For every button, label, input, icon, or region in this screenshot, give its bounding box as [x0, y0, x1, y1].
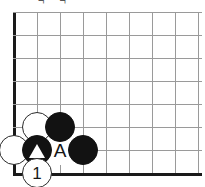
board-line-vertical-7 — [152, 12, 153, 176]
board-line-horizontal-5 — [13, 104, 202, 105]
board-line-vertical-5 — [106, 12, 107, 176]
board-line-horizontal-3 — [13, 58, 202, 59]
triangle-marker-icon — [29, 144, 45, 158]
go-diagram: ¬ ¬ A1 — [0, 0, 205, 187]
stone-black-upper-right[interactable] — [45, 112, 75, 142]
board-line-vertical-8 — [175, 12, 176, 176]
stone-black-right[interactable] — [68, 135, 98, 165]
board-line-vertical-6 — [129, 12, 130, 176]
stone-move-number: 1 — [32, 165, 41, 182]
stone-white-move-one[interactable]: 1 — [22, 158, 52, 187]
board-line-horizontal-2 — [13, 35, 202, 36]
go-board[interactable]: A1 — [0, 0, 205, 187]
board-line-horizontal-4 — [13, 81, 202, 82]
board-line-vertical-9 — [198, 12, 199, 176]
board-line-horizontal-1 — [13, 12, 202, 13]
